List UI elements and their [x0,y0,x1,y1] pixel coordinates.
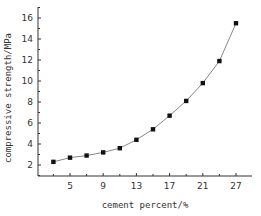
x-tick-label: 27 [230,181,241,191]
y-tick-label: 10 [22,76,34,86]
data-point-marker [151,127,155,131]
series-line [53,23,236,162]
x-tick-label: 5 [67,181,73,191]
data-point-marker [134,138,138,142]
data-point-marker [201,81,205,85]
data-point-marker [68,155,72,159]
y-tick-label: 6 [27,118,33,128]
x-tick-label: 17 [164,181,175,191]
x-tick-label: 13 [131,181,142,191]
y-axis-title: compressive strength/MPa [3,33,13,163]
data-point-marker [234,21,238,25]
data-point-marker [118,146,122,150]
data-point-marker [217,59,221,63]
data-point-marker [84,153,88,157]
y-tick-label: 4 [27,139,33,149]
y-tick-label: 16 [22,13,34,23]
x-tick-label: 21 [197,181,208,191]
y-tick-label: 2 [27,160,33,170]
data-point-marker [184,99,188,103]
y-tick-label: 12 [22,55,33,65]
line-chart: 2468101214165913172127 cement percent/% … [0,0,261,216]
x-tick-label: 9 [100,181,106,191]
data-point-marker [101,150,105,154]
x-axis-title: cement percent/% [102,200,189,210]
data-point-marker [167,113,171,117]
axes: 2468101214165913172127 [22,7,252,191]
data-point-marker [51,160,55,164]
plot-area [51,21,238,164]
y-tick-label: 8 [27,97,33,107]
y-tick-label: 14 [22,34,34,44]
